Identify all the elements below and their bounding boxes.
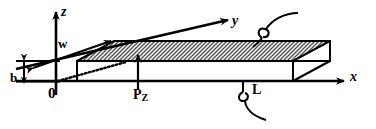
plate-top-face: [77, 41, 330, 61]
plate-bottom-right-edge: [293, 61, 330, 81]
load-label-base: P: [133, 87, 142, 102]
origin-label: 0: [48, 86, 56, 101]
plate-diagram-svg: [0, 0, 376, 129]
figure-canvas: z y x w b 0 L PZ: [0, 0, 376, 129]
load-label-subscript: Z: [142, 92, 149, 103]
plate-front-face: [77, 61, 293, 81]
load-label-pz: PZ: [133, 88, 148, 103]
dimension-label-length: L: [252, 83, 261, 97]
axis-label-x: x: [350, 70, 357, 84]
axis-label-z: z: [61, 5, 66, 19]
axis-label-y: y: [232, 14, 238, 28]
dimension-label-w: w: [58, 37, 67, 50]
dimension-label-b: b: [10, 71, 17, 84]
